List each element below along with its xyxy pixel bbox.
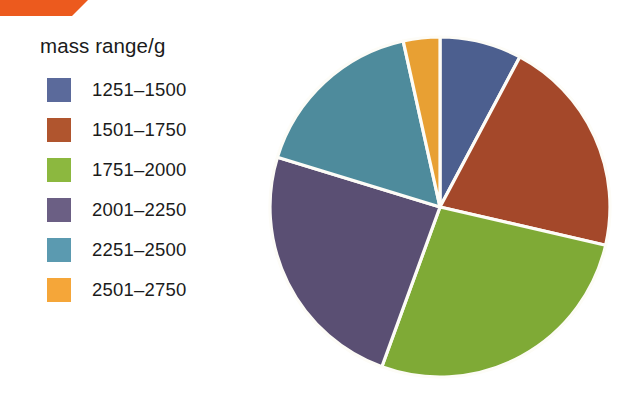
legend-color-swatch [47,78,71,102]
legend-color-swatch [47,278,71,302]
legend-item-label: 1251–1500 [92,79,186,101]
pie-chart-svg [268,35,612,379]
legend-item: 2251–2500 [34,230,244,270]
legend-item-label: 2001–2250 [92,199,186,221]
pie-chart [268,35,612,379]
legend-item-label: 1751–2000 [92,159,186,181]
legend-items: 1251–15001501–17501751–20002001–22502251… [34,70,244,310]
legend-item: 1501–1750 [34,110,244,150]
legend-item-label: 2501–2750 [92,279,186,301]
legend-item: 2001–2250 [34,190,244,230]
legend-item: 1251–1500 [34,70,244,110]
legend-color-swatch [47,118,71,142]
legend-item: 1751–2000 [34,150,244,190]
legend-item: 2501–2750 [34,270,244,310]
legend-color-swatch [47,198,71,222]
legend-color-swatch [47,158,71,182]
corner-banner [0,0,88,16]
legend-title: mass range/g [40,34,244,58]
legend-item-label: 2251–2500 [92,239,186,261]
chart-legend: mass range/g 1251–15001501–17501751–2000… [34,34,244,310]
legend-color-swatch [47,238,71,262]
legend-item-label: 1501–1750 [92,119,186,141]
